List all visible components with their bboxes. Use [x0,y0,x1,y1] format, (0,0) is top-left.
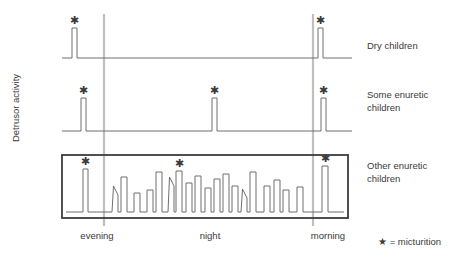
series-label-some-enuretic-children: Some enuretic children [367,88,428,114]
micturition-star-2-20: ✱ [321,152,330,164]
micturition-star-0-0: ✱ [70,14,79,26]
micturition-star-1-1: ✱ [210,84,219,96]
micturition-star-2-0: ✱ [81,155,90,167]
legend-micturition-note: ★ = micturition [378,236,441,247]
time-label-morning: morning [293,230,363,241]
trace-lines [62,28,352,212]
trace-series-0 [62,28,352,58]
micturition-markers: ✱✱✱✱✱✱✱✱ [70,14,330,169]
micturition-star-2-7: ✱ [175,157,184,169]
micturition-star-1-0: ✱ [79,84,88,96]
time-divider-lines [104,14,313,226]
trace-series-2 [66,166,344,212]
micturition-star-0-1: ✱ [316,14,325,26]
time-label-evening: evening [62,230,132,241]
micturition-star-1-2: ✱ [319,84,328,96]
trace-series-1 [62,98,352,131]
figure-root: Detrusor activity ✱✱✱✱✱✱✱✱ Dry childrenS… [0,0,465,259]
series-label-other-enuretic-children: Other enuretic children [367,159,427,185]
time-label-night: night [175,230,245,241]
series-label-dry-children: Dry children [367,39,418,52]
